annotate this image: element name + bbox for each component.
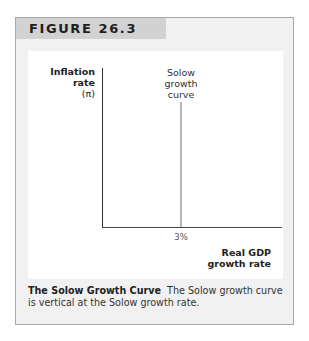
curve-label: Solow growth curve <box>156 67 206 100</box>
solow-growth-curve <box>180 102 182 227</box>
x-axis <box>102 227 282 228</box>
caption-title: The Solow Growth Curve <box>28 285 161 296</box>
x-tick-label: 3% <box>168 232 194 242</box>
y-axis <box>102 68 103 227</box>
figure-caption: The Solow Growth Curve The Solow growth … <box>28 285 288 309</box>
figure-label: FIGURE 26.3 <box>29 21 137 36</box>
y-axis-label-line: rate <box>28 77 95 88</box>
chart-panel: Inflation rate (π) Solow growth curve 3%… <box>28 51 283 279</box>
x-axis-label-line: growth rate <box>208 258 271 269</box>
x-axis-label-line: Real GDP <box>208 247 271 258</box>
curve-label-line: growth <box>156 78 206 89</box>
figure-frame: FIGURE 26.3 Inflation rate (π) Solow gro… <box>15 17 294 325</box>
figure-header: FIGURE 26.3 <box>16 18 166 39</box>
curve-label-line: curve <box>156 89 206 100</box>
curve-label-line: Solow <box>156 67 206 78</box>
y-axis-label-line: (π) <box>28 88 95 99</box>
y-axis-label: Inflation rate (π) <box>28 66 95 99</box>
x-axis-label: Real GDP growth rate <box>208 247 271 269</box>
y-axis-label-line: Inflation <box>28 66 95 77</box>
